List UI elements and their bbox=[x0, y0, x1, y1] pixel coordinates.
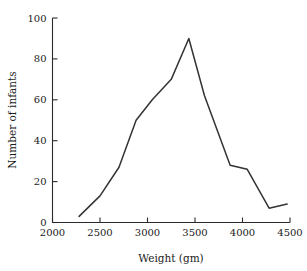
y-axis-ticks bbox=[53, 18, 58, 223]
x-tick-label: 2500 bbox=[87, 227, 112, 238]
y-tick-label: 40 bbox=[34, 135, 47, 146]
x-tick-label: 2000 bbox=[40, 227, 65, 238]
y-axis-title: Number of infants bbox=[6, 71, 18, 168]
x-axis-tick-labels: 200025003000350040004500 bbox=[40, 227, 303, 238]
data-series-line bbox=[79, 38, 287, 216]
x-tick-label: 4000 bbox=[230, 227, 255, 238]
x-tick-label: 3000 bbox=[135, 227, 160, 238]
x-axis-title: Weight (gm) bbox=[138, 252, 203, 264]
y-tick-label: 60 bbox=[34, 94, 47, 105]
x-tick-label: 4500 bbox=[277, 227, 302, 238]
line-chart: 020406080100 200025003000350040004500 We… bbox=[0, 0, 307, 271]
y-tick-label: 80 bbox=[34, 53, 47, 64]
y-tick-label: 100 bbox=[27, 13, 46, 24]
y-axis-spine bbox=[53, 18, 291, 223]
y-axis-tick-labels: 020406080100 bbox=[27, 13, 46, 229]
chart-figure: 020406080100 200025003000350040004500 We… bbox=[0, 0, 307, 271]
x-tick-label: 3500 bbox=[182, 227, 207, 238]
x-axis-ticks bbox=[53, 218, 291, 223]
y-tick-label: 20 bbox=[34, 176, 47, 187]
